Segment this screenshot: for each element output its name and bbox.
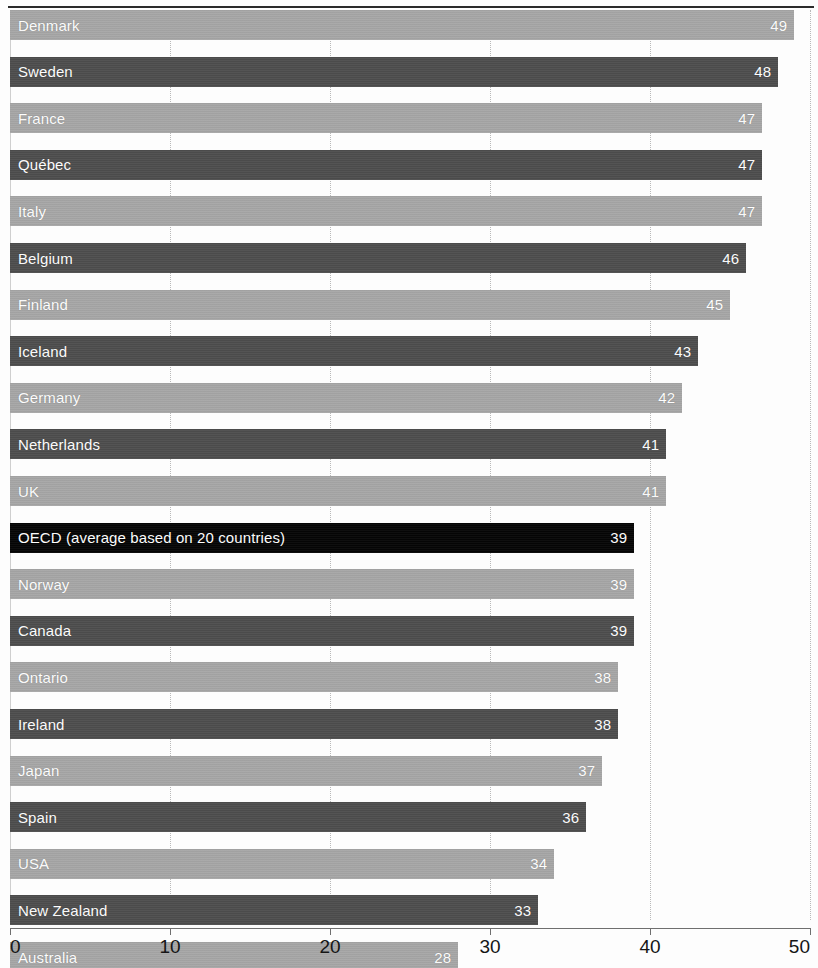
bar[interactable]: Finland45 bbox=[10, 290, 730, 320]
bar-chart: Denmark49Sweden48France47Québec47Italy47… bbox=[0, 0, 818, 968]
bar[interactable]: Japan37 bbox=[10, 756, 602, 786]
bar-row[interactable]: Belgium46 bbox=[0, 243, 818, 273]
bar-value-label: 39 bbox=[600, 576, 627, 593]
bar-value-label: 34 bbox=[520, 855, 547, 872]
bar-category-label: Denmark bbox=[18, 17, 80, 34]
x-axis-line bbox=[10, 928, 810, 929]
bar-category-label: Australia bbox=[18, 949, 77, 966]
bar-category-label: Ireland bbox=[18, 716, 65, 733]
bar-row[interactable]: Netherlands41 bbox=[0, 429, 818, 459]
bar-category-label: Canada bbox=[18, 622, 71, 639]
bar-row[interactable]: Finland45 bbox=[0, 290, 818, 320]
bar-value-label: 42 bbox=[648, 389, 675, 406]
bar-row[interactable]: Spain36 bbox=[0, 802, 818, 832]
bar[interactable]: Ireland38 bbox=[10, 709, 618, 739]
bar[interactable]: UK41 bbox=[10, 476, 666, 506]
bar[interactable]: Iceland43 bbox=[10, 336, 698, 366]
bar-row[interactable]: USA34 bbox=[0, 849, 818, 879]
x-tick-20 bbox=[330, 928, 331, 935]
bar-row[interactable]: Québec47 bbox=[0, 150, 818, 180]
bar-value-label: 41 bbox=[632, 436, 659, 453]
bar-row[interactable]: Germany42 bbox=[0, 383, 818, 413]
bar[interactable]: Canada39 bbox=[10, 616, 634, 646]
bar[interactable]: Québec47 bbox=[10, 150, 762, 180]
x-tick-label-20: 20 bbox=[319, 936, 340, 958]
bar[interactable]: Spain36 bbox=[10, 802, 586, 832]
bar-value-label: 39 bbox=[600, 529, 627, 546]
x-tick-label-0: 0 bbox=[10, 936, 21, 958]
bar[interactable]: Belgium46 bbox=[10, 243, 746, 273]
x-tick-0 bbox=[10, 928, 11, 935]
bar-row[interactable]: OECD (average based on 20 countries)39 bbox=[0, 523, 818, 553]
bar-category-label: Ontario bbox=[18, 669, 68, 686]
x-tick-label-50: 50 bbox=[789, 936, 810, 958]
bar-row[interactable]: Norway39 bbox=[0, 569, 818, 599]
bar-category-label: Japan bbox=[18, 762, 59, 779]
bar-category-label: Spain bbox=[18, 809, 57, 826]
x-tick-40 bbox=[650, 928, 651, 935]
bar-category-label: UK bbox=[18, 483, 39, 500]
chart-top-rule bbox=[8, 6, 814, 8]
bar-category-label: USA bbox=[18, 855, 49, 872]
bar[interactable]: New Zealand33 bbox=[10, 895, 538, 925]
bar-category-label: Finland bbox=[18, 296, 68, 313]
bar-value-label: 47 bbox=[728, 203, 755, 220]
x-tick-10 bbox=[170, 928, 171, 935]
bar-row[interactable]: Ireland38 bbox=[0, 709, 818, 739]
bar[interactable]: Ontario38 bbox=[10, 662, 618, 692]
bar[interactable]: Germany42 bbox=[10, 383, 682, 413]
bar[interactable]: USA34 bbox=[10, 849, 554, 879]
bar-row[interactable]: Denmark49 bbox=[0, 10, 818, 40]
bar-category-label: Québec bbox=[18, 156, 71, 173]
bar-row[interactable]: Canada39 bbox=[0, 616, 818, 646]
bar-category-label: Belgium bbox=[18, 250, 73, 267]
bar[interactable]: Sweden48 bbox=[10, 57, 778, 87]
bar-value-label: 41 bbox=[632, 483, 659, 500]
bar-category-label: Netherlands bbox=[18, 436, 100, 453]
x-tick-label-30: 30 bbox=[479, 936, 500, 958]
bar-value-label: 36 bbox=[552, 809, 579, 826]
bar-value-label: 39 bbox=[600, 622, 627, 639]
bar[interactable]: Netherlands41 bbox=[10, 429, 666, 459]
bar-value-label: 46 bbox=[712, 250, 739, 267]
bar[interactable]: Norway39 bbox=[10, 569, 634, 599]
bar-value-label: 47 bbox=[728, 110, 755, 127]
bar[interactable]: OECD (average based on 20 countries)39 bbox=[10, 523, 634, 553]
plot-area: Denmark49Sweden48France47Québec47Italy47… bbox=[0, 10, 818, 920]
bar-value-label: 49 bbox=[760, 17, 787, 34]
bar-row[interactable]: Japan37 bbox=[0, 756, 818, 786]
bar-value-label: 33 bbox=[504, 902, 531, 919]
x-tick-50 bbox=[810, 928, 811, 935]
bar-category-label: France bbox=[18, 110, 65, 127]
bar-value-label: 38 bbox=[584, 669, 611, 686]
bar[interactable]: Italy47 bbox=[10, 196, 762, 226]
bar-value-label: 48 bbox=[744, 63, 771, 80]
bar-value-label: 28 bbox=[424, 949, 451, 966]
bar-value-label: 45 bbox=[696, 296, 723, 313]
bar[interactable]: France47 bbox=[10, 103, 762, 133]
bar-value-label: 37 bbox=[568, 762, 595, 779]
x-tick-30 bbox=[490, 928, 491, 935]
x-tick-label-10: 10 bbox=[159, 936, 180, 958]
x-tick-label-40: 40 bbox=[639, 936, 660, 958]
bar-value-label: 38 bbox=[584, 716, 611, 733]
bar-row[interactable]: UK41 bbox=[0, 476, 818, 506]
bar-category-label: Italy bbox=[18, 203, 46, 220]
bar-category-label: Iceland bbox=[18, 343, 67, 360]
bar-row[interactable]: Italy47 bbox=[0, 196, 818, 226]
bar[interactable]: Australia28 bbox=[10, 942, 458, 968]
bar-category-label: Germany bbox=[18, 389, 80, 406]
bar-category-label: Norway bbox=[18, 576, 69, 593]
bar-row[interactable]: Australia28 bbox=[0, 942, 818, 968]
bar-row[interactable]: Iceland43 bbox=[0, 336, 818, 366]
bar-value-label: 47 bbox=[728, 156, 755, 173]
bar-category-label: New Zealand bbox=[18, 902, 107, 919]
bar-value-label: 43 bbox=[664, 343, 691, 360]
bar[interactable]: Denmark49 bbox=[10, 10, 794, 40]
bar-category-label: Sweden bbox=[18, 63, 73, 80]
bar-category-label: OECD (average based on 20 countries) bbox=[18, 529, 285, 546]
bar-row[interactable]: New Zealand33 bbox=[0, 895, 818, 925]
bar-row[interactable]: Sweden48 bbox=[0, 57, 818, 87]
bar-row[interactable]: Ontario38 bbox=[0, 662, 818, 692]
bar-row[interactable]: France47 bbox=[0, 103, 818, 133]
